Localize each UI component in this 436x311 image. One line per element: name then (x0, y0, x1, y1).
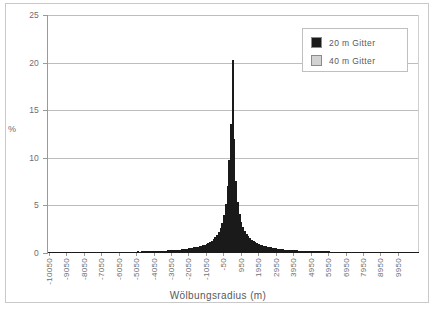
x-axis-title: Wölbungsradius (m) (0, 290, 436, 301)
x-tick-label-5950: 5950 (324, 258, 333, 277)
x-tick-label--8050: -8050 (80, 258, 89, 280)
x-tick-label--3050: -3050 (167, 258, 176, 280)
x-tick-label--2050: -2050 (184, 258, 193, 280)
x-tick-5950 (328, 253, 329, 256)
x-tick--1050 (206, 253, 207, 256)
bar-slot (417, 15, 419, 253)
x-tick-label-6950: 6950 (342, 258, 351, 277)
legend-label-20m: 20 m Gitter (329, 38, 375, 48)
x-tick-label--50: -50 (219, 258, 228, 270)
x-tick--10050 (49, 253, 50, 256)
x-tick-label--10050: -10050 (45, 258, 54, 285)
legend-item-1: 40 m Gitter (311, 55, 375, 66)
x-tick-4950 (311, 253, 312, 256)
x-tick-1950 (258, 253, 259, 256)
x-tick-label--1050: -1050 (202, 258, 211, 280)
x-tick--5050 (136, 253, 137, 256)
chart-figure: 0510152025 % -10050-9050-8050-7050-6050-… (0, 0, 436, 311)
y-axis-title: % (8, 124, 16, 134)
x-tick-2950 (276, 253, 277, 256)
x-tick-label--4050: -4050 (150, 258, 159, 280)
x-tick-6950 (346, 253, 347, 256)
x-tick--3050 (171, 253, 172, 256)
x-tick-8950 (380, 253, 381, 256)
x-tick-7950 (363, 253, 364, 256)
legend-swatch-40m (311, 55, 322, 66)
y-tick-label-5: 5 (13, 200, 39, 210)
x-tick--8050 (84, 253, 85, 256)
y-tick-label-20: 20 (13, 58, 39, 68)
legend-item-0: 20 m Gitter (311, 37, 375, 48)
x-tick--6050 (119, 253, 120, 256)
x-tick-label-4950: 4950 (307, 258, 316, 277)
x-tick-label--6050: -6050 (115, 258, 124, 280)
legend-swatch-20m (311, 37, 322, 48)
x-tick-label--9050: -9050 (62, 258, 71, 280)
x-tick-label-7950: 7950 (359, 258, 368, 277)
x-tick-label--5050: -5050 (132, 258, 141, 280)
x-tick-label-1950: 1950 (254, 258, 263, 277)
x-tick-label-8950: 8950 (376, 258, 385, 277)
chart-legend: 20 m Gitter 40 m Gitter (302, 28, 408, 72)
legend-label-40m: 40 m Gitter (329, 56, 375, 66)
x-tick--2050 (188, 253, 189, 256)
x-axis-ticks (48, 253, 418, 257)
x-tick-label--7050: -7050 (97, 258, 106, 280)
x-tick--50 (223, 253, 224, 256)
x-tick-label-3950: 3950 (289, 258, 298, 277)
x-tick--4050 (154, 253, 155, 256)
x-tick--7050 (101, 253, 102, 256)
x-tick--9050 (66, 253, 67, 256)
y-tick-label-25: 25 (13, 10, 39, 20)
x-tick-label-2950: 2950 (272, 258, 281, 277)
y-tick-label-0: 0 (13, 248, 39, 258)
y-tick-label-10: 10 (13, 153, 39, 163)
x-tick-label-9950: 9950 (394, 258, 403, 277)
x-tick-label-950: 950 (237, 258, 246, 272)
x-tick-3950 (293, 253, 294, 256)
x-tick-9950 (398, 253, 399, 256)
y-tick-label-15: 15 (13, 105, 39, 115)
x-tick-950 (241, 253, 242, 256)
